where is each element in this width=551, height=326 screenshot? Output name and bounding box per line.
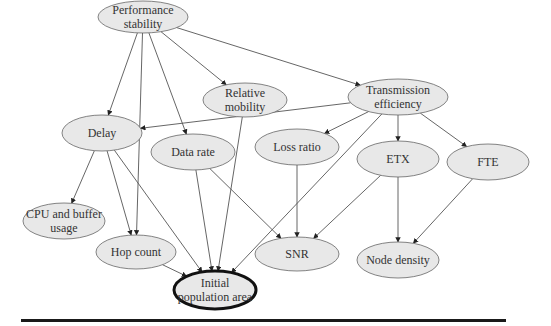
node-label: mobility <box>225 100 266 114</box>
node-label: Node density <box>366 253 430 267</box>
node-label: efficiency <box>374 97 422 111</box>
node-label: SNR <box>285 247 308 261</box>
node-cpu: CPU and bufferusage <box>23 203 105 239</box>
node-hop: Hop count <box>96 235 176 269</box>
node-label: stability <box>124 17 163 31</box>
node-snr: SNR <box>255 237 339 271</box>
edge-trans-to-loss <box>325 112 369 134</box>
edge-delay-to-hop <box>107 151 131 235</box>
node-perf: Performancestability <box>98 1 188 33</box>
node-label: Delay <box>88 126 117 140</box>
edge-perf-to-delay <box>108 33 137 115</box>
node-init: Initialpopulation area <box>174 271 256 309</box>
bottom-rule-divider <box>21 319 506 322</box>
edge-etx-to-snr <box>314 175 381 238</box>
dependency-diagram: PerformancestabilityRelativemobilityTran… <box>0 0 551 326</box>
node-fte: FTE <box>447 144 529 180</box>
node-label: Initial <box>201 276 230 290</box>
node-delay: Delay <box>62 115 142 151</box>
edge-perf-to-trans <box>177 28 361 86</box>
node-label: Data rate <box>171 145 215 159</box>
edge-delay-to-cpu <box>72 151 95 204</box>
node-label: usage <box>50 221 77 235</box>
node-label: ETX <box>386 152 410 166</box>
node-relmob: Relativemobility <box>203 83 287 117</box>
node-label: CPU and buffer <box>26 207 102 221</box>
node-datarate: Data rate <box>151 134 235 170</box>
node-label: Transmission <box>366 83 430 97</box>
nodes-layer: PerformancestabilityRelativemobilityTran… <box>23 1 529 309</box>
node-label: Performance <box>112 3 173 17</box>
node-label: Relative <box>225 86 265 100</box>
node-label: Hop count <box>111 245 162 259</box>
node-label: Loss ratio <box>273 140 321 154</box>
node-node: Node density <box>357 242 439 278</box>
edge-datarate-to-init <box>196 170 212 271</box>
edge-datarate-to-snr <box>210 169 281 239</box>
node-label: FTE <box>477 155 498 169</box>
edge-trans-to-fte <box>420 113 466 147</box>
edge-fte-to-node <box>413 179 472 244</box>
node-loss: Loss ratio <box>255 129 339 165</box>
node-label: population area <box>178 290 253 304</box>
node-trans: Transmissionefficiency <box>348 79 448 115</box>
node-etx: ETX <box>357 141 439 177</box>
edge-hop-to-init <box>163 265 187 277</box>
